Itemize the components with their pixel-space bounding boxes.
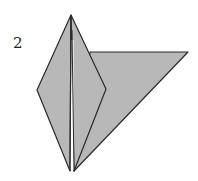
origami-diagram [0,0,198,181]
kite-left-half [37,15,71,171]
